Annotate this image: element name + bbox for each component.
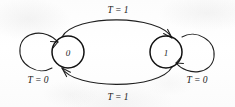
edge-label-zero-to-one: T = 1 — [107, 5, 128, 15]
edge-label-self-loop-one: T = 0 — [186, 75, 207, 85]
edge-label-self-loop-zero: T = 0 — [27, 75, 48, 85]
edge-label-one-to-zero: T = 1 — [107, 92, 128, 102]
one-to-zero-edge — [62, 67, 172, 84]
zero-to-one-edge — [62, 20, 172, 38]
state-label-one: 1 — [164, 48, 169, 58]
zero-to-one-path — [62, 20, 172, 38]
state-diagram-figure: 0 1 T = 0 T = 0 T = 1 T = 1 — [0, 0, 235, 107]
state-label-zero: 0 — [66, 48, 71, 58]
one-to-zero-path — [62, 67, 172, 84]
state-diagram-canvas — [0, 0, 235, 107]
